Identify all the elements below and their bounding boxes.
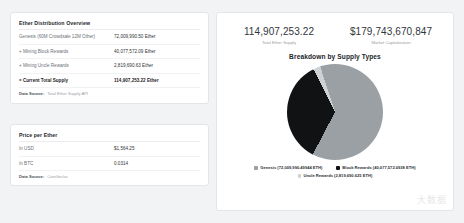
stat-value: $179,743,670,847 (335, 25, 447, 38)
summary-stats: 114,907,253.22 Total Ether Supply $179,7… (223, 19, 447, 48)
data-source-label: Data Source: (19, 91, 44, 97)
row-label: + Mining Block Rewards (19, 48, 68, 55)
row-label: In BTC (19, 160, 33, 167)
watermark: 大数据 (417, 193, 447, 206)
table-row: + Mining Block Rewards 40,077,572.09 Eth… (19, 45, 200, 60)
legend-item[interactable]: Uncle Rewards (2,819,690.625 ETH) (298, 173, 373, 179)
row-value: 72,009,990.50 Ether (114, 33, 200, 40)
ether-supply-page: Ether Distribution Overview Genesis (60M… (0, 0, 464, 223)
row-value: 0.0314 (114, 160, 200, 167)
legend-label: Genesis (72,009,990.49944 ETH) (260, 165, 322, 171)
stat-total-ether-supply: 114,907,253.22 Total Ether Supply (223, 25, 335, 46)
chart-legend: Genesis (72,009,990.49944 ETH) Block Rew… (223, 165, 447, 179)
stat-market-capitalization: $179,743,670,847 Market Capitalization (335, 25, 447, 46)
row-value: 40,077,572.09 Ether (114, 48, 200, 55)
pie-slices[interactable] (287, 64, 383, 160)
table-row: Genesis (60M Crowdsale 12M Other) 72,009… (19, 30, 200, 45)
legend-label: Block Rewards (40,077,572.0938 ETH) (342, 165, 415, 171)
legend-swatch-block-rewards (336, 166, 339, 169)
supply-breakdown-card: 114,907,253.22 Total Ether Supply $179,7… (216, 12, 454, 211)
row-value: 114,907,253.22 Ether (114, 77, 200, 84)
row-label: + Mining Uncle Rewards (19, 62, 69, 69)
row-value: 2,819,690.63 Ether (114, 62, 200, 69)
table-row: + Mining Uncle Rewards 2,819,690.63 Ethe… (19, 59, 200, 74)
table-row: In USD $1,564.25 (19, 142, 200, 157)
distribution-data-source: Data Source: Total Ether Supply API (19, 88, 200, 97)
legend-label: Uncle Rewards (2,819,690.625 ETH) (304, 173, 373, 179)
table-row: In BTC 0.0314 (19, 157, 200, 172)
price-title: Price per Ether (19, 131, 200, 139)
legend-swatch-genesis (254, 166, 257, 169)
ether-distribution-card: Ether Distribution Overview Genesis (60M… (10, 12, 209, 104)
legend-item[interactable]: Genesis (72,009,990.49944 ETH) (254, 165, 322, 171)
distribution-title: Ether Distribution Overview (19, 19, 200, 27)
table-row-total: = Current Total Supply 114,907,253.22 Et… (19, 74, 200, 89)
stat-label: Market Capitalization (335, 39, 447, 46)
pie-chart (223, 60, 447, 164)
price-data-source: Data Source: CoinGecko (19, 171, 200, 180)
stat-value: 114,907,253.22 (223, 25, 335, 38)
data-source-value[interactable]: Total Ether Supply API (47, 91, 88, 97)
row-label: In USD (19, 145, 34, 152)
row-value: $1,564.25 (114, 145, 200, 152)
stat-label: Total Ether Supply (223, 39, 335, 46)
price-per-ether-card: Price per Ether In USD $1,564.25 In BTC … (10, 124, 209, 186)
row-label: Genesis (60M Crowdsale 12M Other) (19, 33, 95, 40)
legend-item[interactable]: Block Rewards (40,077,572.0938 ETH) (336, 165, 415, 171)
pie-slice-group (287, 64, 383, 160)
data-source-value[interactable]: CoinGecko (47, 174, 67, 180)
row-label: = Current Total Supply (19, 77, 68, 84)
data-source-label: Data Source: (19, 174, 44, 180)
legend-swatch-uncle-rewards (298, 174, 301, 177)
